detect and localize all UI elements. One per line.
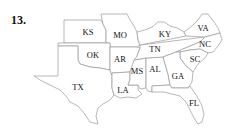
state-label-ky: KY <box>159 29 171 39</box>
state-label-la: LA <box>117 85 129 95</box>
state-label-ok: OK <box>87 50 100 60</box>
state-label-sc: SC <box>190 54 201 64</box>
state-label-tx: TX <box>72 82 83 92</box>
state-label-nc: NC <box>199 39 211 49</box>
state-label-mo: MO <box>113 30 127 40</box>
state-label-tn: TN <box>149 44 160 54</box>
state-label-ks: KS <box>83 27 94 37</box>
southeast-us-map: KS MO KY VA OK AR TN NC SC MS AL GA TX L… <box>0 0 227 131</box>
state-label-ms: MS <box>131 66 144 76</box>
state-label-va: VA <box>197 23 209 33</box>
state-label-al: AL <box>149 64 160 74</box>
state-label-fl: FL <box>189 98 199 108</box>
state-label-ar: AR <box>114 54 126 64</box>
state-label-ga: GA <box>172 71 185 81</box>
